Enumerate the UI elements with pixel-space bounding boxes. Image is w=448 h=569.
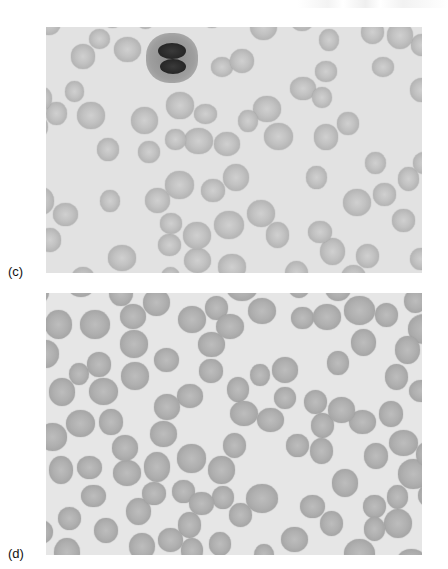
red-blood-cell: [223, 433, 246, 458]
red-blood-cell: [209, 532, 231, 555]
red-blood-cell: [337, 112, 359, 135]
red-blood-cell: [112, 435, 139, 461]
red-blood-cell: [189, 492, 214, 515]
red-blood-cell: [121, 362, 149, 390]
red-blood-cell: [313, 304, 341, 329]
red-blood-cell: [165, 171, 194, 199]
red-blood-cell: [53, 203, 78, 226]
red-blood-cell: [71, 267, 94, 273]
red-blood-cell: [365, 152, 386, 174]
red-blood-cell: [257, 408, 284, 432]
red-blood-cell: [248, 298, 276, 324]
red-blood-cell: [165, 129, 185, 151]
nucleus-lobe: [158, 43, 186, 59]
red-blood-cell: [306, 166, 326, 189]
red-blood-cell: [285, 261, 308, 273]
neutrophil-cell: [146, 33, 198, 83]
red-blood-cell: [154, 348, 179, 372]
red-blood-cell: [246, 484, 278, 512]
red-blood-cell: [97, 138, 119, 161]
red-blood-cell: [102, 27, 123, 28]
nucleus-lobe: [160, 59, 186, 74]
red-blood-cell: [327, 351, 349, 376]
red-blood-cell: [158, 528, 183, 552]
red-blood-cell: [129, 533, 155, 555]
red-blood-cell: [113, 460, 141, 486]
red-blood-cell: [274, 387, 296, 409]
red-blood-cell: [158, 234, 181, 256]
red-blood-cell: [281, 527, 307, 553]
micrograph-panel-c: [46, 27, 422, 273]
red-blood-cell: [120, 304, 146, 329]
red-blood-cell: [385, 364, 408, 390]
red-blood-cell: [291, 307, 313, 329]
red-blood-cell: [410, 78, 422, 102]
red-blood-cell: [286, 434, 309, 458]
red-blood-cell: [81, 485, 105, 508]
red-blood-cell: [319, 29, 339, 51]
red-blood-cell: [361, 27, 384, 44]
red-blood-cell: [89, 29, 110, 49]
red-blood-cell: [214, 211, 244, 239]
red-blood-cell: [410, 248, 422, 270]
red-blood-cell: [154, 394, 180, 421]
red-blood-cell: [183, 222, 211, 250]
red-blood-cell: [372, 57, 394, 77]
red-blood-cell: [201, 179, 225, 202]
red-blood-cell: [120, 330, 148, 358]
red-blood-cell: [363, 495, 385, 518]
red-blood-cell: [194, 104, 217, 124]
red-blood-cell: [54, 538, 80, 555]
red-blood-cell: [136, 27, 155, 29]
red-blood-cell: [364, 443, 388, 470]
red-blood-cell: [250, 27, 277, 40]
red-blood-cell: [404, 293, 423, 313]
red-blood-cell: [80, 310, 110, 339]
red-blood-cell: [46, 340, 59, 368]
red-blood-cell: [223, 164, 249, 191]
red-blood-cell: [332, 469, 358, 497]
red-blood-cell: [49, 456, 73, 484]
red-blood-cell: [250, 364, 270, 387]
red-blood-cell: [320, 511, 343, 536]
red-blood-cell: [379, 401, 403, 427]
red-blood-cell: [384, 509, 412, 538]
red-blood-cell: [218, 254, 245, 273]
red-blood-cell: [395, 336, 420, 364]
red-blood-cell: [65, 81, 83, 102]
red-blood-cell: [160, 213, 182, 234]
panel-label-c: (c): [8, 264, 23, 279]
red-blood-cell: [89, 378, 118, 405]
red-blood-cell: [389, 430, 418, 456]
red-blood-cell: [364, 517, 385, 541]
red-blood-cell: [131, 107, 158, 134]
red-blood-cell: [46, 228, 61, 251]
red-blood-cell: [216, 314, 244, 339]
red-blood-cell: [66, 410, 95, 437]
page-header-fragment: [298, 0, 448, 8]
red-blood-cell: [58, 507, 81, 530]
red-blood-cell: [178, 306, 206, 333]
red-blood-cell: [87, 352, 111, 376]
red-blood-cell: [356, 244, 380, 269]
red-blood-cell: [46, 520, 53, 545]
red-blood-cell: [289, 27, 314, 31]
micrograph-panel-d: [46, 293, 422, 555]
red-blood-cell: [184, 128, 212, 154]
red-blood-cell: [351, 329, 376, 356]
red-blood-cell: [387, 485, 408, 508]
red-blood-cell: [46, 310, 72, 339]
red-blood-cell: [238, 110, 258, 132]
red-blood-cell: [375, 303, 399, 328]
red-blood-cell: [314, 124, 339, 150]
red-blood-cell: [304, 390, 327, 414]
red-blood-cell: [46, 27, 61, 35]
red-blood-cell: [344, 539, 375, 555]
red-blood-cell: [344, 296, 375, 324]
red-blood-cell: [254, 544, 274, 555]
red-blood-cell: [199, 359, 222, 382]
red-blood-cell: [184, 248, 211, 273]
red-blood-cell: [392, 209, 415, 231]
red-blood-cell: [100, 190, 119, 212]
red-blood-cell: [99, 409, 122, 436]
